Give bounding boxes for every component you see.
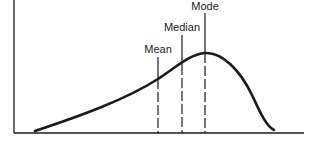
skewed-distribution-diagram: Mean Median Mode <box>0 0 313 142</box>
distribution-curve <box>35 53 274 131</box>
mode-label: Mode <box>191 0 219 12</box>
median-label: Median <box>164 21 200 33</box>
mean-label: Mean <box>144 43 172 55</box>
